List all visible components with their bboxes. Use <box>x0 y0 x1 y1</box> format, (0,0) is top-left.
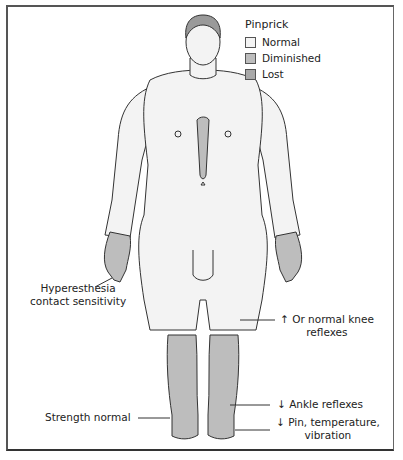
hyperesthesia-line2: contact sensitivity <box>30 295 126 308</box>
knee-line2: reflexes <box>280 326 374 339</box>
hyperesthesia-annotation: Hyperesthesia contact sensitivity <box>30 282 126 308</box>
pin-line1: ↓ Pin, temperature, <box>276 416 380 429</box>
left-hand <box>104 232 130 282</box>
ankle-annotation: ↓ Ankle reflexes <box>277 398 363 411</box>
swatch-lost <box>245 69 256 80</box>
right-lower-leg <box>208 335 239 439</box>
left-lower-leg <box>167 335 198 439</box>
knee-annotation: ↑ Or normal knee reflexes <box>280 313 374 339</box>
strength-annotation: Strength normal <box>45 411 131 424</box>
pin-line2: vibration <box>276 429 380 442</box>
legend-item-lost: Lost <box>245 66 321 82</box>
knee-line1: ↑ Or normal knee <box>280 313 374 326</box>
swatch-normal <box>245 37 256 48</box>
legend-label-lost: Lost <box>262 66 284 82</box>
right-hand <box>275 232 301 282</box>
pinprick-legend: Pinprick Normal Diminished Lost <box>245 17 321 82</box>
pin-annotation: ↓ Pin, temperature, vibration <box>276 416 380 442</box>
swatch-diminished <box>245 53 256 64</box>
legend-item-normal: Normal <box>245 34 321 50</box>
legend-label-normal: Normal <box>262 34 300 50</box>
legend-label-diminished: Diminished <box>262 50 321 66</box>
legend-title: Pinprick <box>245 17 321 33</box>
hyperesthesia-line1: Hyperesthesia <box>30 282 126 295</box>
legend-item-diminished: Diminished <box>245 50 321 66</box>
body-diagram <box>0 0 403 460</box>
torso <box>139 70 268 330</box>
